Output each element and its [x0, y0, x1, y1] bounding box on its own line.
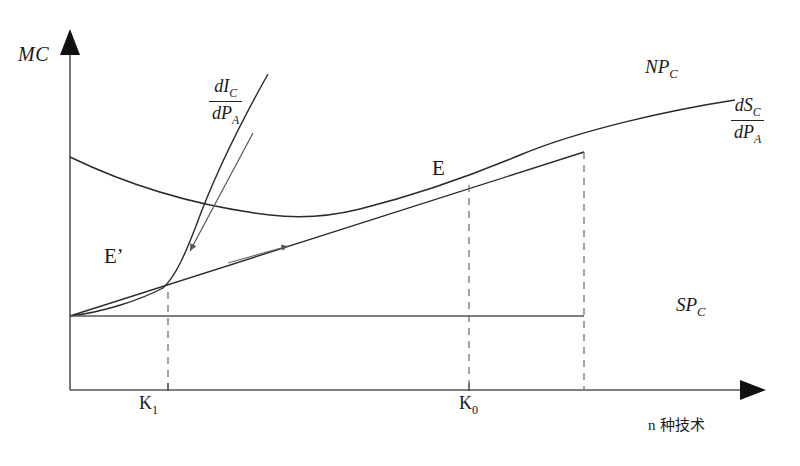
fraction-di-dp-denominator-subscript: A — [232, 112, 239, 126]
fraction-di-dp-denominator: dPA — [209, 102, 242, 127]
fraction-ds-dp-numerator-text: dS — [735, 95, 753, 115]
curve-label-np-c-subscript: C — [669, 67, 677, 81]
tick-label-k0: K0 — [459, 394, 478, 416]
tick-label-k1-text: K — [139, 393, 152, 413]
inline-ray-arrow — [228, 246, 288, 263]
curve-label-sp-c-subscript: C — [697, 305, 705, 319]
diagram-svg — [0, 0, 800, 466]
fraction-ds-dp-denominator-text: dP — [734, 122, 754, 142]
fraction-di-dp: dIC dPA — [209, 76, 242, 127]
fraction-ds-dp: dSC dPA — [731, 95, 764, 146]
curve-np-c — [70, 100, 735, 217]
point-label-e-prime-mark: ’ — [117, 245, 124, 267]
tick-label-k1-subscript: 1 — [152, 403, 158, 417]
fraction-ds-dp-denominator-subscript: A — [754, 131, 761, 145]
figure-canvas: MC n 种技术 NPC SPC E E’ K1 K0 dIC dPA dSC … — [0, 0, 800, 466]
tick-label-k0-text: K — [459, 393, 472, 413]
point-label-e-prime-text: E — [104, 244, 117, 268]
curve-label-np-c: NPC — [645, 57, 678, 80]
fraction-di-dp-numerator-text: dI — [214, 76, 229, 96]
point-label-e-prime: E’ — [104, 246, 123, 267]
y-axis-arrowhead — [60, 29, 80, 55]
x-axis-label-text: 种技术 — [660, 416, 705, 434]
fraction-ds-dp-numerator: dSC — [731, 95, 764, 121]
fraction-ds-dp-numerator-subscript: C — [753, 105, 761, 119]
fraction-di-dp-denominator-text: dP — [212, 103, 232, 123]
x-axis-label-prefix: n — [648, 417, 656, 433]
fraction-di-dp-numerator-subscript: C — [229, 86, 237, 100]
fraction-di-dp-stack: dIC dPA — [209, 76, 242, 127]
curve-label-sp-c: SPC — [676, 295, 705, 318]
y-axis-label: MC — [18, 44, 49, 64]
point-label-e: E — [432, 158, 445, 179]
fraction-ds-dp-stack: dSC dPA — [731, 95, 764, 146]
leader-di-dp — [190, 133, 253, 251]
tick-label-k1: K1 — [139, 394, 158, 416]
curve-label-sp-c-text: SP — [676, 294, 697, 315]
curve-label-np-c-text: NP — [645, 56, 669, 77]
fraction-di-dp-numerator: dIC — [209, 76, 242, 102]
x-axis-arrowhead — [740, 380, 766, 400]
x-axis-label: n 种技术 — [648, 418, 705, 433]
tick-label-k0-subscript: 0 — [472, 403, 478, 417]
fraction-ds-dp-denominator: dPA — [731, 121, 764, 146]
line-sp-ray — [70, 152, 584, 316]
